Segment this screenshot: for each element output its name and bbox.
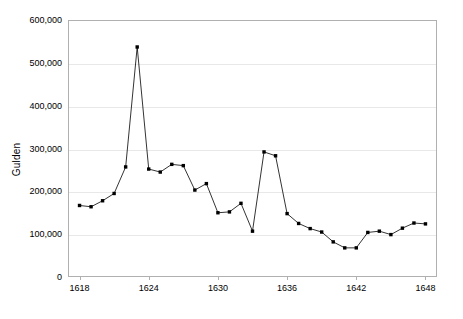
data-point-marker <box>297 222 300 225</box>
data-point-marker <box>274 154 277 157</box>
data-point-marker <box>101 199 104 202</box>
data-point-marker <box>147 167 150 170</box>
data-point-marker <box>378 229 381 232</box>
data-point-marker <box>332 240 335 243</box>
data-point-marker <box>228 210 231 213</box>
data-point-marker <box>262 150 265 153</box>
data-point-marker <box>355 246 358 249</box>
data-point-marker <box>401 226 404 229</box>
data-point-marker <box>216 211 219 214</box>
data-point-marker <box>366 231 369 234</box>
data-point-marker <box>412 221 415 224</box>
chart-container: Gulden 0100,000200,000300,000400,000500,… <box>0 0 463 319</box>
data-point-marker <box>389 233 392 236</box>
data-point-marker <box>424 222 427 225</box>
data-point-marker <box>159 170 162 173</box>
data-point-marker <box>124 165 127 168</box>
data-point-marker <box>89 205 92 208</box>
data-point-marker <box>308 227 311 230</box>
data-point-marker <box>193 188 196 191</box>
data-series-layer <box>0 0 463 319</box>
data-point-marker <box>285 212 288 215</box>
data-point-marker <box>239 202 242 205</box>
data-point-marker <box>320 230 323 233</box>
data-point-marker <box>182 164 185 167</box>
data-point-marker <box>343 246 346 249</box>
data-point-marker <box>135 45 138 48</box>
data-point-marker <box>78 204 81 207</box>
data-point-marker <box>112 192 115 195</box>
data-point-marker <box>205 182 208 185</box>
data-point-marker <box>251 229 254 232</box>
series-line <box>80 47 426 248</box>
data-point-marker <box>170 163 173 166</box>
